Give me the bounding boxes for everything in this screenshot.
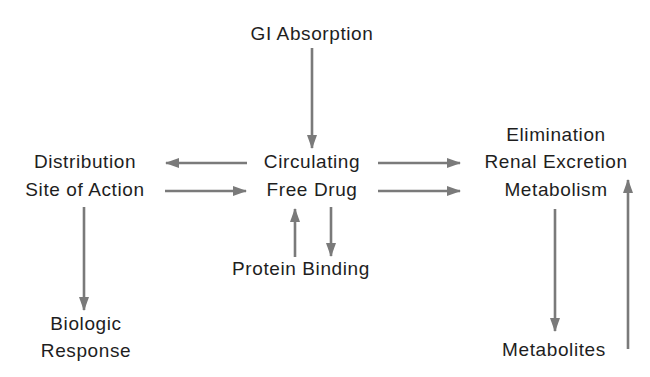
node-distribution-line2: Site of Action <box>25 180 144 199</box>
node-protein-binding: Protein Binding <box>232 259 370 278</box>
node-metabolites: Metabolites <box>502 340 606 359</box>
node-distribution-line1: Distribution <box>34 152 136 171</box>
node-elimination-line1: Elimination <box>506 125 606 144</box>
node-gi-absorption: GI Absorption <box>251 24 374 43</box>
drug-disposition-diagram: GI Absorption Circulating Free Drug Dist… <box>0 0 650 377</box>
node-elimination-line2: Renal Excretion <box>484 152 627 171</box>
node-biologic-response-line1: Biologic <box>50 314 121 333</box>
node-circulating-line1: Circulating <box>264 152 360 171</box>
node-elimination-line3: Metabolism <box>504 180 607 199</box>
node-biologic-response-line2: Response <box>41 341 131 360</box>
node-circulating-line2: Free Drug <box>267 180 358 199</box>
